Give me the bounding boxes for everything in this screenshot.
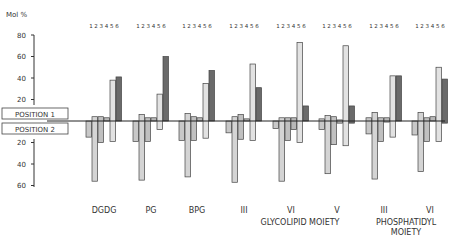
category-label: PG [145,206,156,215]
bar [279,118,285,181]
category-label: VI [287,206,295,215]
bar [291,118,297,130]
bar [337,120,343,123]
category-label: VI [426,206,434,215]
svg-text:POSITION 2: POSITION 2 [15,126,55,134]
category-label: III [380,206,387,215]
bar [297,43,303,143]
bar-index-labels: 1 2 3 4 5 6 [182,23,212,29]
bar [203,83,209,138]
bar-index-labels: 1 2 3 4 5 6 [415,23,445,29]
bar [325,116,331,174]
category-label: V [334,206,340,215]
bar [110,80,116,141]
bar-group-4: 1 2 3 4 5 6 [273,23,309,181]
bar [319,119,325,130]
bar-index-labels: 1 2 3 4 5 6 [89,23,119,29]
position-1-box: POSITION 1 [2,108,68,119]
bar-group-1: 1 2 3 4 5 6 [133,23,169,180]
bar [209,70,215,121]
svg-text:40: 40 [17,161,26,169]
group-caption: GLYCOLIPID MOIETY [260,218,339,227]
bar-index-labels: 1 2 3 4 5 6 [322,23,352,29]
bar [92,117,98,182]
bar-group-7: 1 2 3 4 5 6 [412,23,448,172]
category-label: III [240,206,247,215]
bar [163,57,169,122]
chart: Mol % 20406080204060 1 2 3 4 5 61 2 3 4 … [0,0,463,237]
bar [250,64,256,140]
bar [226,121,232,133]
svg-text:20: 20 [17,96,26,104]
svg-text:20: 20 [17,139,26,147]
bar [343,46,349,146]
bar-index-labels: 1 2 3 4 5 6 [229,23,259,29]
bar-index-labels: 1 2 3 4 5 6 [369,23,399,29]
bar [157,94,163,129]
bar [396,76,402,121]
svg-text:60: 60 [17,53,26,61]
group-caption: MOIETY [391,228,422,237]
bar-index-labels: 1 2 3 4 5 6 [276,23,306,29]
bar [366,118,372,134]
bar-group-3: 1 2 3 4 5 6 [226,23,262,182]
svg-text:60: 60 [17,182,26,190]
bar [116,77,122,121]
bar [179,121,185,140]
bar-group-6: 1 2 3 4 5 6 [366,23,402,179]
category-label: BPG [189,206,206,215]
bar [390,76,396,137]
bar [133,121,139,141]
bar [185,113,191,176]
position-2-box: POSITION 2 [2,123,68,134]
bar [430,117,436,121]
bar [232,117,238,183]
bar [191,117,197,141]
category-label: DGDG [92,206,117,215]
bar [303,106,309,121]
bar [442,79,448,123]
bar [273,121,279,129]
svg-text:80: 80 [17,32,26,40]
bar [256,88,262,121]
bar [139,115,145,181]
svg-text:POSITION 1: POSITION 1 [15,111,55,119]
bar [238,115,244,140]
bar [436,67,442,141]
bar-group-5: 1 2 3 4 5 6 [319,23,355,174]
bar [372,112,378,179]
bar [412,121,418,135]
bars: 1 2 3 4 5 61 2 3 4 5 61 2 3 4 5 61 2 3 4… [86,23,448,182]
bar-index-labels: 1 2 3 4 5 6 [136,23,166,29]
bar [86,121,92,137]
y-axis-label: Mol % [6,11,27,19]
bar-group-0: 1 2 3 4 5 6 [86,23,122,181]
x-axis-labels: DGDGPGBPGIIIVIVIIIVIGLYCOLIPID MOIETYPHO… [92,206,437,237]
group-caption: PHOSPHATIDYL [376,218,437,227]
bar-group-2: 1 2 3 4 5 6 [179,23,215,177]
svg-text:40: 40 [17,75,26,83]
